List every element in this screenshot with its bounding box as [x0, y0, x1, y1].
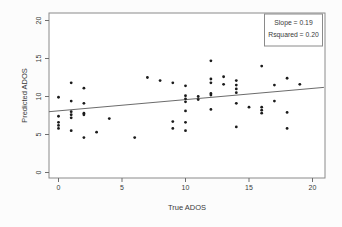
- data-point: [57, 127, 60, 130]
- data-point: [171, 120, 174, 123]
- data-point: [286, 111, 289, 114]
- data-point: [57, 121, 60, 124]
- data-point: [83, 136, 86, 139]
- data-point: [83, 113, 86, 116]
- data-point: [210, 78, 213, 81]
- data-point: [197, 95, 200, 98]
- data-point: [184, 110, 187, 113]
- data-point: [133, 136, 136, 139]
- data-point: [184, 94, 187, 97]
- data-point: [235, 126, 238, 129]
- x-axis-title: True ADOS: [168, 203, 206, 212]
- data-point: [70, 110, 73, 113]
- data-point: [235, 91, 238, 94]
- data-point: [260, 112, 263, 115]
- data-point: [210, 59, 213, 62]
- data-point: [260, 65, 263, 68]
- x-tick-label: 15: [245, 184, 253, 191]
- x-tick-label: 5: [120, 184, 124, 191]
- y-tick-label: 0: [35, 170, 42, 174]
- data-point: [235, 79, 238, 82]
- data-point: [286, 77, 289, 80]
- data-point: [57, 124, 60, 127]
- data-point: [222, 83, 225, 86]
- data-point: [171, 127, 174, 130]
- data-point: [70, 81, 73, 84]
- r-scatter-plot-figure: 0510152005101520True ADOSPredicted ADOSS…: [0, 0, 342, 227]
- data-point: [70, 113, 73, 116]
- x-tick-label: 10: [182, 184, 190, 191]
- data-point: [171, 81, 174, 84]
- data-point: [197, 98, 200, 101]
- data-point: [184, 121, 187, 124]
- data-point: [298, 83, 301, 86]
- data-point: [273, 100, 276, 103]
- data-point: [83, 102, 86, 105]
- legend-slope-text: Slope = 0.19: [274, 19, 313, 27]
- y-axis-title: Predicted ADOS: [20, 68, 29, 123]
- y-tick-label: 15: [35, 55, 42, 63]
- data-point: [286, 127, 289, 130]
- x-tick-label: 20: [309, 184, 317, 191]
- data-point: [184, 129, 187, 132]
- data-point: [70, 116, 73, 119]
- data-point: [248, 106, 251, 109]
- x-tick-label: 0: [57, 184, 61, 191]
- data-point: [210, 81, 213, 84]
- data-point: [146, 76, 149, 79]
- data-point: [235, 102, 238, 105]
- data-point: [184, 84, 187, 87]
- y-tick-label: 20: [35, 17, 42, 25]
- data-point: [57, 115, 60, 118]
- data-point: [235, 88, 238, 91]
- data-point: [260, 106, 263, 109]
- data-point: [83, 87, 86, 90]
- data-point: [273, 84, 276, 87]
- y-tick-label: 5: [35, 132, 42, 136]
- data-point: [184, 100, 187, 103]
- data-point: [70, 129, 73, 132]
- data-point: [210, 94, 213, 97]
- data-point: [184, 97, 187, 100]
- data-point: [260, 109, 263, 112]
- scatter-plot: 0510152005101520True ADOSPredicted ADOSS…: [0, 0, 342, 227]
- data-point: [159, 79, 162, 82]
- data-point: [70, 100, 73, 103]
- data-point: [57, 96, 60, 99]
- data-point: [95, 131, 98, 134]
- data-point: [108, 117, 111, 120]
- data-point: [210, 108, 213, 111]
- y-tick-label: 10: [35, 93, 42, 101]
- data-point: [222, 75, 225, 78]
- data-point: [235, 84, 238, 87]
- legend-rsquared-text: Rsquared = 0.20: [268, 31, 319, 39]
